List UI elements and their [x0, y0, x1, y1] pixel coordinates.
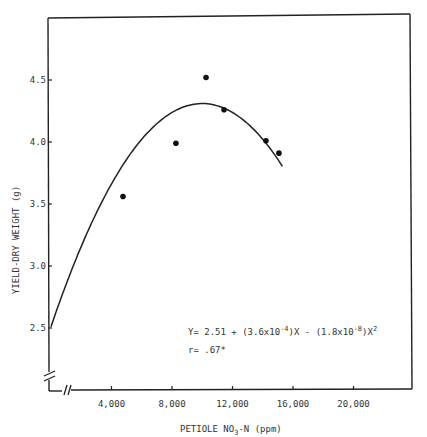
data-point — [203, 75, 209, 81]
y-tick-label: 3.5 — [30, 199, 46, 209]
y-tick-label: 4.5 — [30, 75, 46, 85]
data-point — [263, 138, 269, 144]
data-point — [221, 107, 227, 113]
y-axis-title: YIELD-DRY WEIGHT (g) — [11, 186, 21, 294]
data-point — [276, 150, 282, 156]
data-point — [120, 194, 126, 200]
y-tick-label: 2.5 — [30, 323, 46, 333]
fit-curve — [51, 104, 282, 327]
x-tick-label: 12,000 — [216, 399, 249, 409]
x-tick-label: 16,000 — [277, 399, 310, 409]
x-tick-label: 4,000 — [98, 399, 125, 409]
x-axis-title: PETIOLE NO3-N (ppm) — [180, 424, 282, 437]
y-tick-label: 4.0 — [30, 137, 46, 147]
correlation-r: r= .67* — [188, 345, 226, 355]
data-point — [173, 140, 179, 146]
x-tick-label: 20,000 — [337, 399, 370, 409]
y-tick-label: 3.0 — [30, 261, 46, 271]
regression-equation: Y= 2.51 + (3.6x10-4)X - (1.8x10-8)X2 — [188, 325, 377, 337]
chart: 2.53.03.54.04.5 4,0008,00012,00016,00020… — [0, 0, 427, 437]
x-tick-label: 8,000 — [158, 399, 185, 409]
